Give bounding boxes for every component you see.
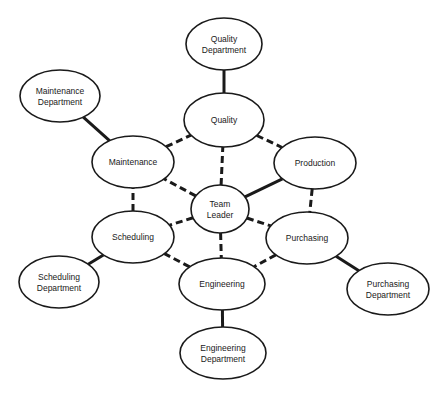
node-label: Department — [366, 290, 411, 300]
edge-scheduling-to-scheduling-dept — [88, 255, 103, 264]
node-label: Production — [295, 158, 336, 168]
node-label: Engineering — [200, 343, 246, 353]
node-label: Department — [201, 354, 246, 364]
edge-quality-to-production — [257, 136, 282, 148]
node-scheduling-dept: SchedulingDepartment — [19, 256, 99, 308]
node-label: Leader — [207, 210, 234, 220]
team-structure-diagram: QualityDepartmentQualityMaintenanceDepar… — [0, 0, 448, 396]
edge-purchasing-to-purchasing-dept — [336, 256, 359, 270]
node-label: Scheduling — [112, 232, 154, 242]
node-team-leader: TeamLeader — [191, 185, 249, 233]
edge-team-leader-to-production — [245, 179, 282, 197]
node-label: Quality — [211, 34, 238, 44]
edge-team-leader-to-maintenance — [164, 179, 196, 196]
node-label: Scheduling — [38, 272, 80, 282]
edge-production-to-purchasing — [310, 189, 312, 212]
node-label: Department — [38, 97, 83, 107]
node-label: Department — [37, 283, 82, 293]
node-scheduling: Scheduling — [92, 211, 174, 263]
edge-team-leader-to-purchasing — [247, 218, 271, 226]
node-quality: Quality — [184, 93, 264, 147]
node-label: Department — [202, 45, 247, 55]
edge-engineering-to-scheduling — [165, 254, 190, 267]
node-label: Maintenance — [109, 157, 158, 167]
node-label: Engineering — [199, 279, 245, 289]
edge-maintenance-to-quality — [166, 135, 191, 147]
node-maintenance-dept: MaintenanceDepartment — [20, 70, 100, 122]
edge-purchasing-to-engineering — [254, 255, 276, 267]
node-purchasing-dept: PurchasingDepartment — [347, 263, 429, 315]
edge-team-leader-to-engineering — [221, 233, 222, 258]
node-quality-dept: QualityDepartment — [186, 18, 262, 70]
node-label: Team — [210, 199, 231, 209]
node-label: Quality — [211, 115, 238, 125]
node-label: Purchasing — [367, 279, 410, 289]
node-label: Purchasing — [286, 233, 329, 243]
edge-team-leader-to-scheduling — [170, 218, 193, 226]
node-purchasing: Purchasing — [266, 212, 348, 264]
node-engineering-dept: EngineeringDepartment — [180, 327, 266, 379]
node-production: Production — [274, 137, 356, 189]
edge-team-leader-to-quality — [221, 147, 223, 185]
node-label: Maintenance — [36, 86, 85, 96]
node-maintenance: Maintenance — [92, 136, 174, 188]
edge-maintenance-to-maintenance-dept — [83, 117, 109, 141]
node-engineering: Engineering — [179, 258, 265, 310]
